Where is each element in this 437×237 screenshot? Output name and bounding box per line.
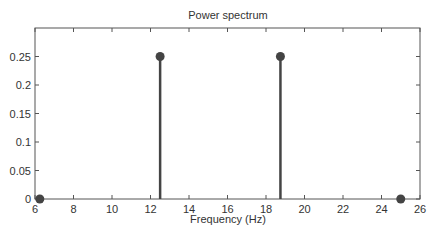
y-tick-label: 0.05	[10, 165, 31, 177]
x-axis-label: Frequency (Hz)	[190, 213, 266, 225]
stem-marker	[156, 52, 165, 61]
stem-marker	[35, 195, 44, 204]
x-tick-label: 20	[298, 203, 310, 215]
chart-title: Power spectrum	[188, 9, 267, 21]
stem-marker	[396, 195, 405, 204]
x-tick-label: 10	[106, 203, 118, 215]
y-tick-label: 0.25	[10, 51, 31, 63]
power-spectrum-chart: Power spectrum 6810121416182022242600.05…	[0, 0, 437, 237]
axes: 6810121416182022242600.050.10.150.20.25	[10, 28, 427, 215]
data-stems	[35, 52, 405, 204]
y-tick-label: 0.15	[10, 108, 31, 120]
stem-marker	[276, 52, 285, 61]
x-tick-label: 22	[337, 203, 349, 215]
x-tick-label: 8	[70, 203, 76, 215]
x-tick-label: 26	[414, 203, 426, 215]
y-tick-label: 0.2	[16, 79, 31, 91]
x-tick-label: 6	[32, 203, 38, 215]
y-tick-label: 0	[25, 193, 31, 205]
y-tick-label: 0.1	[16, 136, 31, 148]
x-tick-label: 12	[144, 203, 156, 215]
plot-frame	[35, 28, 420, 199]
x-tick-label: 24	[375, 203, 387, 215]
